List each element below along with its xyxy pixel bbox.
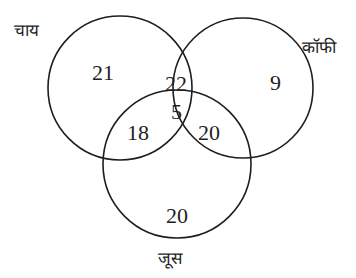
coffee-label: कॉफी [302,37,337,57]
coffee-circle [173,18,313,158]
region-tea-only: 21 [92,60,114,85]
region-coffee-only: 9 [270,70,281,95]
region-tea-coffee: 22 [165,71,187,96]
venn-diagram: चाय कॉफी जूस 21 9 20 22 18 20 5 [0,0,356,278]
region-tea-juice: 18 [127,120,149,145]
region-coffee-juice: 20 [198,120,220,145]
juice-label: जूस [158,248,183,269]
tea-label: चाय [14,20,40,40]
region-all-three: 5 [171,99,182,124]
region-juice-only: 20 [166,203,188,228]
